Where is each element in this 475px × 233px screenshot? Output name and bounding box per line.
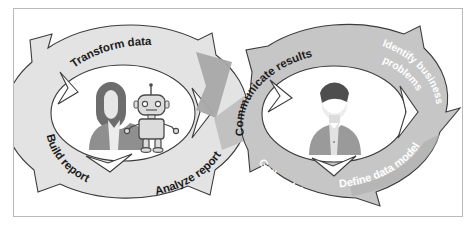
figure-container: Transform data Build report Analyze repo… xyxy=(0,0,475,233)
lifecycle-diagram: Transform data Build report Analyze repo… xyxy=(0,0,475,233)
